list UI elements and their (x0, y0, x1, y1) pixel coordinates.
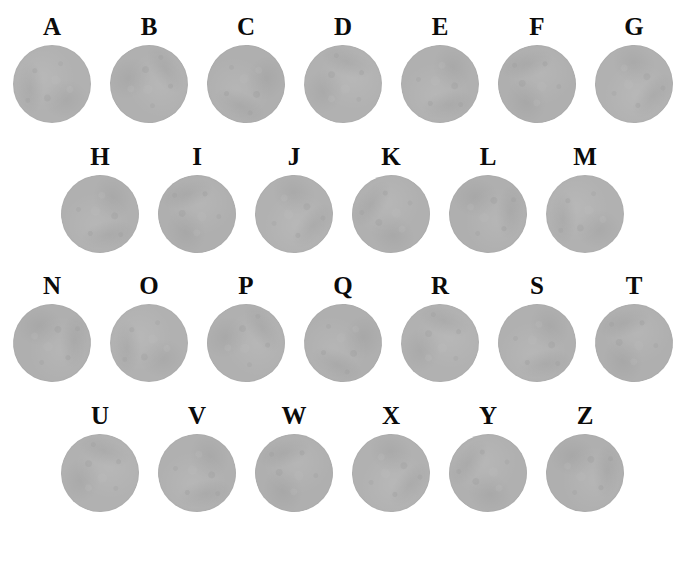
panel-cell-o[interactable]: O (101, 271, 197, 400)
specimen-disc-l[interactable] (446, 172, 531, 257)
panel-label-w: W (246, 401, 342, 433)
specimen-disc-t[interactable] (586, 295, 682, 391)
panel-cell-v[interactable]: V (149, 401, 245, 530)
panel-cell-i[interactable]: I (149, 142, 245, 271)
specimen-disc-w[interactable] (246, 425, 342, 521)
panel-cell-g[interactable]: G (586, 12, 682, 141)
panel-cell-w[interactable]: W (246, 401, 342, 530)
panel-cell-s[interactable]: S (489, 271, 585, 400)
panel-label-b: B (101, 12, 197, 44)
panel-label-g: G (586, 12, 682, 44)
plate-figure: ABCDEFGHIJKLMNOPQRSTUVWXYZ (0, 0, 688, 573)
panel-cell-d[interactable]: D (295, 12, 391, 141)
panel-label-i: I (149, 142, 245, 174)
specimen-disc-d[interactable] (293, 34, 394, 135)
panel-cell-c[interactable]: C (198, 12, 294, 141)
panel-row: HIJKLM (0, 142, 688, 271)
panel-label-u: U (52, 401, 148, 433)
panel-label-y: Y (440, 401, 536, 433)
panel-label-e: E (392, 12, 488, 44)
specimen-disc-y[interactable] (433, 418, 542, 527)
panel-cell-l[interactable]: L (440, 142, 536, 271)
panel-cell-e[interactable]: E (392, 12, 488, 141)
panel-label-p: P (198, 271, 294, 303)
panel-cell-p[interactable]: P (198, 271, 294, 400)
panel-cell-u[interactable]: U (52, 401, 148, 530)
specimen-disc-f[interactable] (489, 36, 585, 132)
specimen-disc-b[interactable] (95, 30, 202, 137)
panel-cell-y[interactable]: Y (440, 401, 536, 530)
panel-label-x: X (343, 401, 439, 433)
panel-row: ABCDEFG (0, 12, 688, 141)
panel-cell-h[interactable]: H (52, 142, 148, 271)
specimen-disc-o[interactable] (110, 304, 188, 382)
panel-label-f: F (489, 12, 585, 44)
panel-label-m: M (537, 142, 633, 174)
panel-label-n: N (4, 271, 100, 303)
specimen-disc-e[interactable] (394, 38, 485, 129)
specimen-disc-p[interactable] (192, 289, 299, 396)
panel-cell-m[interactable]: M (537, 142, 633, 271)
panel-label-s: S (489, 271, 585, 303)
panel-cell-r[interactable]: R (392, 271, 488, 400)
specimen-disc-z[interactable] (543, 431, 628, 516)
specimen-disc-n[interactable] (10, 301, 95, 386)
specimen-disc-j[interactable] (239, 159, 349, 269)
panel-label-d: D (295, 12, 391, 44)
specimen-disc-k[interactable] (336, 159, 445, 268)
panel-row: UVWXYZ (0, 401, 688, 530)
panel-label-o: O (101, 271, 197, 303)
panel-cell-t[interactable]: T (586, 271, 682, 400)
panel-cell-z[interactable]: Z (537, 401, 633, 530)
panel-cell-f[interactable]: F (489, 12, 585, 141)
panel-label-k: K (343, 142, 439, 174)
panel-label-t: T (586, 271, 682, 303)
panel-cell-n[interactable]: N (4, 271, 100, 400)
specimen-disc-x[interactable] (336, 418, 446, 528)
specimen-disc-i[interactable] (149, 166, 245, 262)
panel-label-l: L (440, 142, 536, 174)
panel-cell-a[interactable]: A (4, 12, 100, 141)
specimen-disc-s[interactable] (491, 297, 582, 388)
specimen-disc-a[interactable] (13, 45, 91, 123)
panel-label-z: Z (537, 401, 633, 433)
specimen-disc-r[interactable] (390, 293, 491, 394)
panel-label-j: J (246, 142, 342, 174)
panel-cell-j[interactable]: J (246, 142, 342, 271)
panel-label-q: Q (295, 271, 391, 303)
panel-label-h: H (52, 142, 148, 174)
specimen-disc-u[interactable] (50, 423, 151, 524)
specimen-disc-v[interactable] (151, 427, 242, 518)
panel-label-c: C (198, 12, 294, 44)
panel-label-a: A (4, 12, 100, 44)
specimen-disc-m[interactable] (546, 175, 624, 253)
specimen-disc-g[interactable] (579, 29, 688, 139)
panel-cell-k[interactable]: K (343, 142, 439, 271)
panel-cell-x[interactable]: X (343, 401, 439, 530)
panel-label-v: V (149, 401, 245, 433)
panel-cell-b[interactable]: B (101, 12, 197, 141)
specimen-disc-q[interactable] (291, 291, 395, 395)
panel-label-r: R (392, 271, 488, 303)
specimen-disc-h[interactable] (54, 168, 145, 259)
panel-row: NOPQRST (0, 271, 688, 400)
specimen-disc-c[interactable] (194, 32, 298, 136)
panel-cell-q[interactable]: Q (295, 271, 391, 400)
